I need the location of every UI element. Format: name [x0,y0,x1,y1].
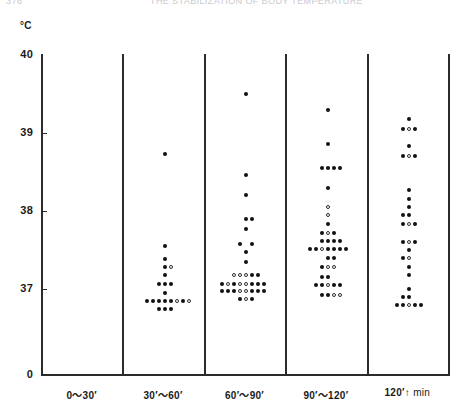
data-point [163,291,167,295]
y-axis-unit-label: °C [20,20,32,31]
data-point [169,299,173,303]
data-point [151,299,155,303]
data-point [163,265,167,269]
y-tick-label-37: 37 [5,282,33,294]
data-point [232,282,236,286]
data-point [401,154,405,158]
data-point [169,307,173,311]
data-point [326,275,330,279]
data-point [320,166,324,170]
x-tick-label-text: 0～30′ [66,390,97,401]
x-tick-label-1: 0～30′ [41,387,122,402]
data-point [326,186,330,190]
data-point [338,166,342,170]
data-point [338,239,342,243]
data-point [232,273,236,277]
data-point [407,222,411,226]
data-point [163,282,167,286]
data-point [413,303,417,307]
y-tick-label-39: 39 [5,126,33,138]
data-point [157,299,161,303]
data-point [220,289,224,293]
data-point [187,299,191,303]
data-point [407,197,411,201]
data-point [163,257,167,261]
data-point [407,205,411,209]
data-point [326,213,330,217]
data-point [163,273,167,277]
data-point [244,227,248,231]
data-point [332,166,336,170]
data-point [401,256,405,260]
data-point [256,289,260,293]
data-point [401,213,405,217]
y-tick-label-40: 40 [5,48,33,60]
data-point [244,193,248,197]
data-point [407,303,411,307]
data-point [262,282,266,286]
data-point [326,222,330,226]
data-point [407,295,411,299]
data-point [413,222,417,226]
data-point [326,231,330,235]
data-point [401,303,405,307]
data-point [413,127,417,131]
data-point [407,240,411,244]
data-point [314,247,318,251]
data-point [232,289,236,293]
data-point [244,260,248,264]
data-point [250,297,254,301]
data-point [169,265,173,269]
data-point [326,265,330,269]
data-point [407,248,411,252]
data-point [407,144,411,148]
data-point [238,289,242,293]
data-point [326,283,330,287]
data-point [326,293,330,297]
data-point [250,217,254,221]
x-tick-label-text: 90′～120′ [303,390,348,401]
data-point [320,247,324,251]
data-point [220,282,224,286]
data-point [250,273,254,277]
data-point [320,293,324,297]
data-point [314,283,318,287]
data-point [332,283,336,287]
data-point [326,205,330,209]
data-point [157,307,161,311]
data-point [244,282,248,286]
data-point [401,240,405,244]
data-point [338,247,342,251]
data-point [326,108,330,112]
data-point [413,240,417,244]
data-point [407,213,411,217]
data-point [407,273,411,277]
data-point [407,188,411,192]
data-point [320,239,324,243]
data-point [163,244,167,248]
data-point [326,142,330,146]
data-point [175,299,179,303]
data-point [332,256,336,260]
plot-area [41,55,448,375]
data-point [326,239,330,243]
data-point [250,282,254,286]
data-point [238,297,242,301]
data-point [326,256,330,260]
x-axis-unit-label: min [413,387,430,398]
data-point [226,282,230,286]
data-point [238,273,242,277]
data-point [332,231,336,235]
data-point [401,295,405,299]
data-point [256,273,260,277]
data-point [407,256,411,260]
data-point [308,247,312,251]
data-point [326,166,330,170]
data-point [413,154,417,158]
x-tick-label-5: 120′↑ min [367,387,448,398]
x-tick-label-text: 30′～60′ [144,390,183,401]
scatter-chart: °C 403938370 0～30′30′～60′60′～90′90′～120′… [0,0,466,417]
data-point [250,242,254,246]
x-tick-label-text: 60′～90′ [225,390,264,401]
data-point [320,275,324,279]
